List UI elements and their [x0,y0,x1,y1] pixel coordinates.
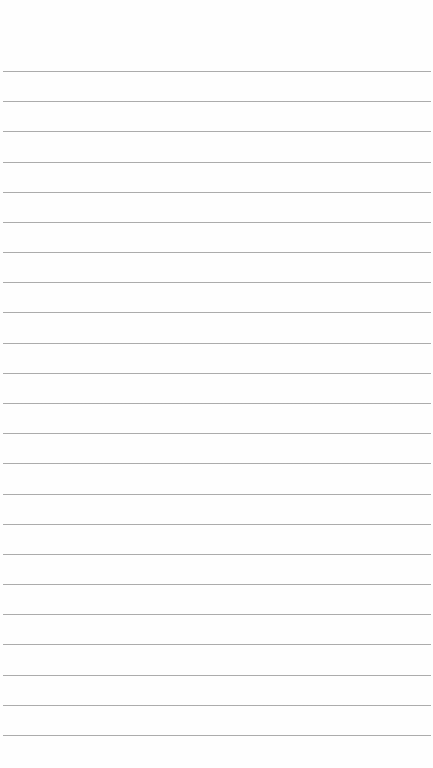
ruled-line [3,584,431,585]
ruled-line [3,373,431,374]
ruled-line [3,524,431,525]
ruled-line [3,554,431,555]
ruled-line [3,252,431,253]
ruled-line [3,343,431,344]
ruled-line [3,705,431,706]
ruled-line [3,162,431,163]
ruled-line [3,735,431,736]
ruled-line [3,675,431,676]
ruled-line [3,222,431,223]
ruled-line [3,131,431,132]
ruled-line [3,494,431,495]
lined-paper-sheet [0,0,433,768]
ruled-line [3,192,431,193]
ruled-line [3,282,431,283]
ruled-line [3,101,431,102]
ruled-line [3,644,431,645]
ruled-line [3,614,431,615]
ruled-line [3,312,431,313]
ruled-line [3,403,431,404]
ruled-line [3,71,431,72]
ruled-line [3,433,431,434]
ruled-line [3,463,431,464]
